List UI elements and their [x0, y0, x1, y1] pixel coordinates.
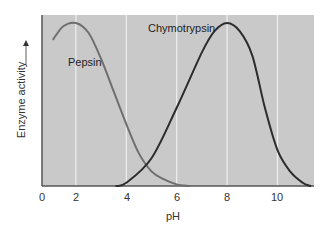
x-axis-title: pH — [166, 210, 180, 222]
pepsin-label: Pepsin — [68, 56, 102, 68]
x-tick-4: 4 — [124, 191, 130, 203]
y-axis-title: Enzyme activity — [15, 62, 27, 138]
x-tick-0: 0 — [39, 191, 45, 203]
x-tick-8: 8 — [224, 191, 230, 203]
x-tick-10: 10 — [271, 191, 283, 203]
enzyme-activity-chart: 0 2 4 6 8 10 pH Enzyme activity Pepsin C… — [0, 0, 330, 234]
plot-background — [42, 15, 314, 186]
x-tick-6: 6 — [174, 191, 180, 203]
chymotrypsin-label: Chymotrypsin — [148, 22, 215, 34]
y-axis-arrow-head — [23, 40, 29, 46]
x-tick-2: 2 — [73, 191, 79, 203]
